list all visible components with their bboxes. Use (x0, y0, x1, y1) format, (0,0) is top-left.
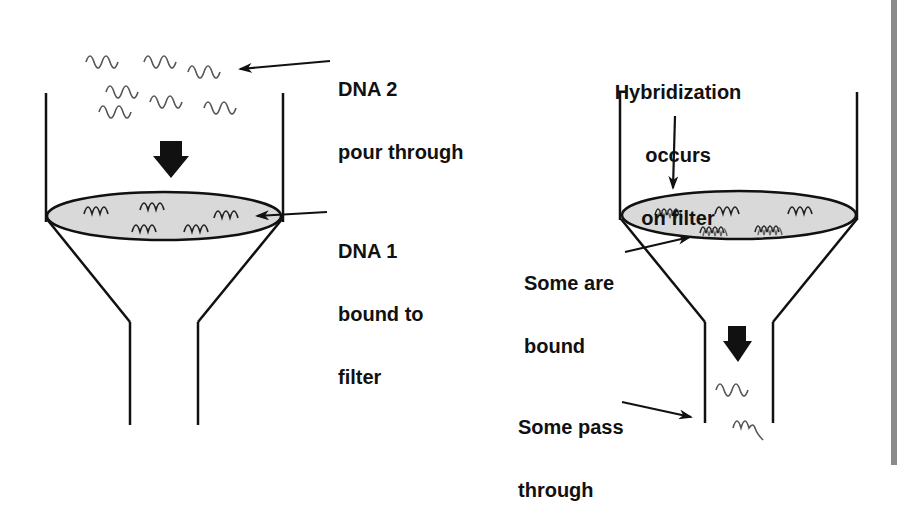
dna-strand-icon (106, 86, 138, 98)
dna2-label-line2: pour through (338, 142, 464, 163)
hybridization-label-line1: Hybridization (610, 82, 746, 103)
dna-strand-icon (188, 66, 220, 78)
dna-strand-icon (716, 384, 748, 396)
some-pass-label: Some pass through (518, 375, 624, 505)
right-flow-arrow-icon (723, 326, 752, 362)
dna-strand-icon (150, 96, 182, 108)
dna2-label-line1: DNA 2 (338, 79, 464, 100)
dna1-label: DNA 1 bound to filter (338, 199, 424, 430)
dna-strand-icon (204, 102, 236, 114)
some-pass-label-line1: Some pass (518, 417, 624, 438)
left-flow-arrow-icon (153, 141, 189, 178)
dna-strand-icon (99, 106, 131, 118)
dna2-free-strands (86, 56, 236, 118)
dna-strand-icon (86, 56, 118, 68)
dna1-label-line1: DNA 1 (338, 241, 424, 262)
hybridization-label: Hybridization occurs on filter (610, 40, 746, 271)
pass-pointer-arrow-icon (622, 402, 691, 417)
some-pass-label-line2: through (518, 480, 624, 501)
passed-strands (716, 384, 763, 440)
some-bound-label-line1: Some are (524, 273, 614, 294)
dna-strand-icon (733, 421, 763, 440)
some-bound-label-line2: bound (524, 336, 614, 357)
dna2-pointer-arrow-icon (240, 61, 330, 69)
left-filter (47, 192, 281, 240)
hybridization-label-line3: on filter (610, 208, 746, 229)
dna2-label: DNA 2 pour through (338, 37, 464, 205)
page-edge-bar (891, 0, 897, 465)
dna1-label-line3: filter (338, 367, 424, 388)
some-bound-label: Some are bound (524, 231, 614, 399)
hybridization-label-line2: occurs (610, 145, 746, 166)
dna1-label-line2: bound to (338, 304, 424, 325)
dna-strand-icon (144, 56, 176, 68)
